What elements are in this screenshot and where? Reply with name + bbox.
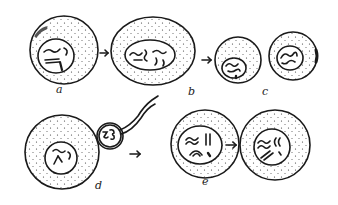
- arrow-a-b: [100, 50, 108, 56]
- cell-d: [25, 115, 99, 189]
- cell-diagram: [0, 0, 338, 205]
- cell-c1: [215, 37, 261, 83]
- cell-a: [30, 16, 98, 84]
- label-a: a: [56, 84, 63, 95]
- arrow-d-e: [130, 151, 140, 157]
- label-c: c: [262, 86, 268, 97]
- label-e: e: [202, 176, 209, 187]
- cell-c2: [269, 32, 317, 80]
- cell-f: [240, 110, 310, 180]
- cell-e: [171, 110, 239, 178]
- label-b: b: [188, 86, 195, 97]
- cell-d-polar-body: [97, 96, 158, 149]
- arrow-b-c: [202, 57, 211, 63]
- cell-b: [111, 17, 195, 85]
- label-d: d: [95, 180, 102, 191]
